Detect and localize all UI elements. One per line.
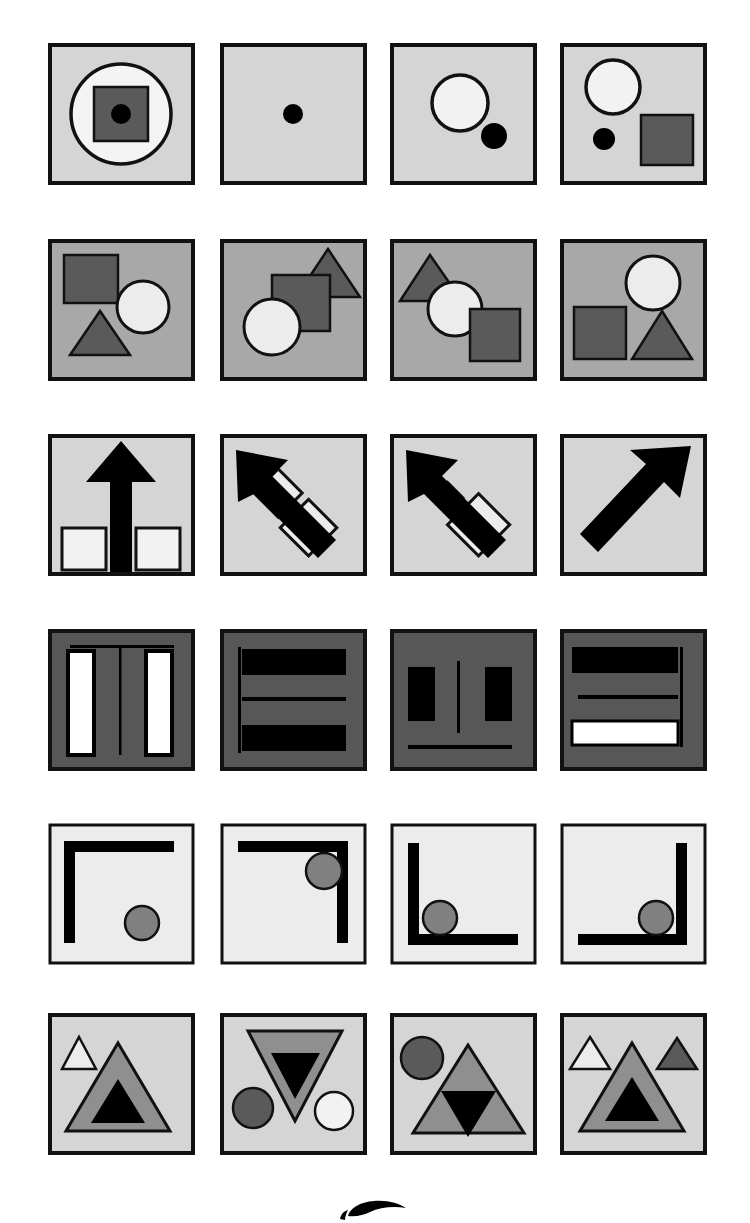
publisher-logo-mark bbox=[320, 1186, 430, 1223]
panel-r1c1[interactable] bbox=[48, 43, 195, 185]
panel-r2c2[interactable] bbox=[220, 239, 367, 381]
panel-r3c2[interactable] bbox=[220, 434, 367, 576]
panel-r3c3[interactable] bbox=[390, 434, 537, 576]
panel-r1c2[interactable] bbox=[220, 43, 367, 185]
panel-r4c1[interactable] bbox=[48, 629, 195, 771]
panel-r4c3[interactable] bbox=[390, 629, 537, 771]
panel-r1c4[interactable] bbox=[560, 43, 707, 185]
panel-grid bbox=[0, 0, 750, 1175]
panel-r1c3[interactable] bbox=[390, 43, 537, 185]
panel-r4c2[interactable] bbox=[220, 629, 367, 771]
panel-r5c3[interactable] bbox=[390, 823, 537, 965]
panel-r5c1[interactable] bbox=[48, 823, 195, 965]
panel-r3c4[interactable] bbox=[560, 434, 707, 576]
panel-r3c1[interactable] bbox=[48, 434, 195, 576]
panel-r2c1[interactable] bbox=[48, 239, 195, 381]
panel-r6c2[interactable] bbox=[220, 1013, 367, 1155]
figure-sheet bbox=[0, 0, 750, 1223]
panel-r6c1[interactable] bbox=[48, 1013, 195, 1155]
panel-r6c4[interactable] bbox=[560, 1013, 707, 1155]
panel-r2c4[interactable] bbox=[560, 239, 707, 381]
panel-r5c4[interactable] bbox=[560, 823, 707, 965]
panel-r6c3[interactable] bbox=[390, 1013, 537, 1155]
panel-r2c3[interactable] bbox=[390, 239, 537, 381]
panel-r4c4[interactable] bbox=[560, 629, 707, 771]
panel-r5c2[interactable] bbox=[220, 823, 367, 965]
